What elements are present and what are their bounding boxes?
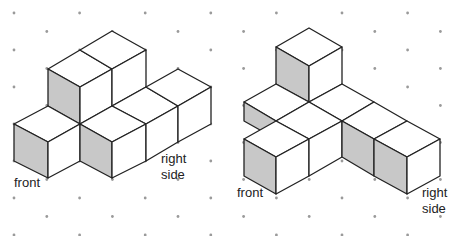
grid-dot <box>308 215 311 218</box>
grid-dot <box>406 197 409 200</box>
grid-dot <box>13 234 16 236</box>
grid-dot <box>406 234 409 236</box>
grid-dot <box>242 67 245 70</box>
grid-dot <box>373 215 376 218</box>
grid-dot <box>177 215 180 218</box>
grid-dot <box>209 234 212 236</box>
label-front-right: front <box>237 186 263 200</box>
grid-dot <box>373 30 376 33</box>
grid-dot <box>341 197 344 200</box>
label-right-side-left-line1: right <box>161 152 186 166</box>
grid-dot <box>177 30 180 33</box>
grid-dot <box>275 12 278 15</box>
grid-dot <box>406 12 409 15</box>
grid-dot <box>209 12 212 15</box>
grid-dot <box>13 12 16 15</box>
grid-dot <box>341 12 344 15</box>
grid-dot <box>242 30 245 33</box>
grid-dot <box>45 30 48 33</box>
grid-dot <box>209 197 212 200</box>
grid-dot <box>439 178 442 181</box>
grid-dot <box>111 215 114 218</box>
label-right-side-right-line1: right <box>422 186 447 200</box>
grid-dot <box>45 215 48 218</box>
cube-faces <box>14 28 440 194</box>
grid-dot <box>439 30 442 33</box>
grid-dot <box>373 178 376 181</box>
grid-dot <box>78 234 81 236</box>
grid-dot <box>209 49 212 52</box>
grid-dot <box>406 86 409 89</box>
grid-dot <box>13 197 16 200</box>
grid-dot <box>13 86 16 89</box>
grid-dot <box>341 234 344 236</box>
grid-dot <box>373 67 376 70</box>
grid-dot <box>144 234 147 236</box>
label-right-side-left-line2: side <box>161 168 185 182</box>
grid-dot <box>78 197 81 200</box>
grid-dot <box>308 178 311 181</box>
grid-dot <box>406 49 409 52</box>
grid-dot <box>13 49 16 52</box>
grid-dot <box>144 197 147 200</box>
grid-dot <box>78 12 81 15</box>
isometric-diagram <box>0 0 457 236</box>
grid-dot <box>439 104 442 107</box>
grid-dot <box>144 12 147 15</box>
grid-dot <box>275 197 278 200</box>
grid-dot <box>341 160 344 163</box>
grid-dot <box>242 178 245 181</box>
grid-dot <box>209 160 212 163</box>
grid-dot <box>242 215 245 218</box>
label-right-side-right-line2: side <box>422 202 446 216</box>
grid-dot <box>439 67 442 70</box>
grid-dot <box>275 234 278 236</box>
label-front-left: front <box>14 176 40 190</box>
